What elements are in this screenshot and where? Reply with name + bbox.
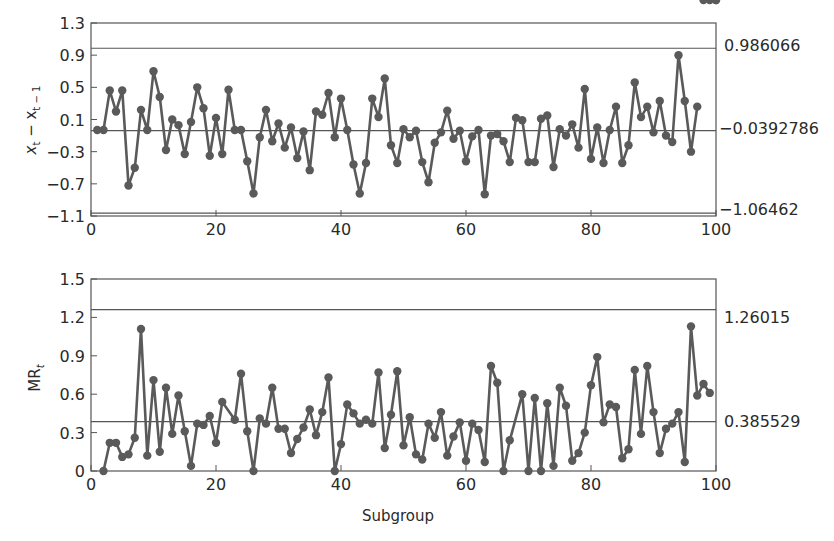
data-point: [456, 418, 464, 426]
data-point: [143, 126, 151, 134]
data-point: [412, 127, 420, 135]
data-point: [137, 325, 145, 333]
y-tick-label: −0.3: [46, 143, 85, 162]
y-tick-label: 0.6: [60, 385, 85, 404]
bottom-x-ticks: 020406080100: [86, 465, 731, 494]
data-point: [681, 458, 689, 466]
data-point: [468, 419, 476, 427]
data-point: [543, 399, 551, 407]
data-point: [237, 370, 245, 378]
y-tick-label: 1.5: [60, 270, 85, 289]
x-tick-label: 60: [456, 220, 476, 239]
data-point: [349, 409, 357, 417]
data-point: [299, 423, 307, 431]
data-point: [499, 137, 507, 145]
data-point: [112, 439, 120, 447]
data-point: [168, 115, 176, 123]
x-tick-label: 100: [701, 475, 732, 494]
data-point: [543, 111, 551, 119]
data-point: [462, 457, 470, 465]
data-point: [124, 450, 132, 458]
data-point: [306, 405, 314, 413]
x-tick-label: 100: [701, 220, 732, 239]
data-point: [481, 190, 489, 198]
data-point: [587, 155, 595, 163]
data-point: [312, 431, 320, 439]
y-tick-label: 0.9: [60, 46, 85, 65]
data-point: [518, 116, 526, 124]
data-point: [306, 166, 314, 174]
data-point: [337, 94, 345, 102]
data-point: [218, 150, 226, 158]
data-point: [599, 418, 607, 426]
data-point: [431, 139, 439, 147]
top-cl-label: −0.0392786: [719, 119, 819, 138]
data-point: [343, 400, 351, 408]
x-tick-label: 80: [581, 475, 601, 494]
control-chart-figure: 1.30.90.50.1−0.3−0.7−1.1 020406080100 0.…: [0, 0, 834, 541]
data-point: [668, 419, 676, 427]
bottom-ucl-label: 1.26015: [724, 308, 790, 327]
data-point: [381, 74, 389, 82]
data-point: [218, 398, 226, 406]
data-point: [149, 376, 157, 384]
y-tick-label: 0.1: [60, 111, 85, 130]
bottom-y-axis-label: MRt: [26, 363, 46, 391]
data-point: [443, 451, 451, 459]
data-point: [212, 439, 220, 447]
data-point: [568, 457, 576, 465]
data-point: [637, 430, 645, 438]
data-point: [187, 462, 195, 470]
data-point: [287, 449, 295, 457]
data-point: [693, 102, 701, 110]
bottom-data-line: [104, 326, 710, 471]
data-point: [587, 381, 595, 389]
data-point: [699, 380, 707, 388]
data-point: [468, 132, 476, 140]
y-tick-label: 0.9: [60, 347, 85, 366]
x-tick-label: 0: [86, 475, 96, 494]
data-point: [249, 467, 257, 475]
data-point: [374, 113, 382, 121]
data-point: [162, 146, 170, 154]
data-point: [262, 419, 270, 427]
y-tick-label: 0: [75, 462, 85, 481]
y-tick-label: −0.7: [46, 175, 85, 194]
data-point: [499, 467, 507, 475]
data-point: [706, 389, 714, 397]
x-tick-label: 60: [456, 475, 476, 494]
data-point: [606, 126, 614, 134]
data-point: [556, 125, 564, 133]
data-point: [518, 390, 526, 398]
chart-canvas: 1.30.90.50.1−0.3−0.7−1.1 020406080100 0.…: [0, 0, 834, 541]
data-point: [649, 128, 657, 136]
data-point: [156, 93, 164, 101]
data-point: [368, 419, 376, 427]
top-ucl-label: 0.986066: [724, 36, 800, 55]
top-y-ticks: 1.30.90.50.1−0.3−0.7−1.1: [46, 14, 97, 226]
data-point: [262, 106, 270, 114]
data-point: [687, 147, 695, 155]
data-point: [387, 141, 395, 149]
data-point: [243, 157, 251, 165]
data-point: [624, 445, 632, 453]
data-point: [618, 159, 626, 167]
data-point: [293, 154, 301, 162]
x-tick-label: 0: [86, 220, 96, 239]
data-point: [674, 408, 682, 416]
data-point: [687, 322, 695, 330]
data-point: [631, 366, 639, 374]
data-point: [318, 110, 326, 118]
data-point: [206, 412, 214, 420]
data-point: [637, 113, 645, 121]
data-point: [393, 367, 401, 375]
data-point: [537, 467, 545, 475]
data-point: [231, 416, 239, 424]
data-point: [268, 137, 276, 145]
data-point: [593, 123, 601, 131]
data-point: [549, 163, 557, 171]
data-point: [224, 86, 232, 94]
data-point: [399, 125, 407, 133]
data-point: [174, 391, 182, 399]
data-point: [174, 121, 182, 129]
